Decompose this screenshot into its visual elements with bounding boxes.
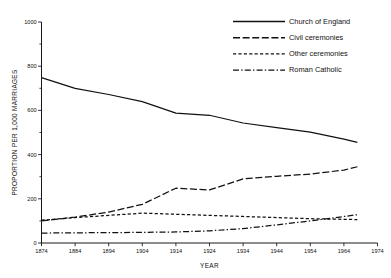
y-tick-label: 800 [27,63,36,69]
legend-label-roman-catholic: Roman Catholic [289,65,342,74]
y-tick-label: 600 [27,107,36,113]
y-tick-label: 400 [27,152,36,158]
x-tick-label: 1924 [203,248,215,254]
x-tick-label: 1884 [69,248,81,254]
x-tick-label: 1974 [371,248,383,254]
x-tick-label: 1894 [102,248,114,254]
x-tick-label: 1944 [270,248,282,254]
x-tick-label: 1914 [170,248,182,254]
legend-label-civil-ceremonies: Civil ceremonies [289,33,344,42]
y-tick-label: 1000 [24,19,36,25]
legend-label-church-of-england: Church of England [289,17,350,26]
y-tick-label: 0 [34,240,37,246]
x-tick-label: 1874 [35,248,47,254]
x-tick-label: 1934 [237,248,249,254]
x-tick-label: 1964 [338,248,350,254]
y-axis-title: PROPORTION PER 1,000 MARRIAGES [11,69,18,195]
x-tick-label: 1954 [304,248,316,254]
legend-label-other-ceremonies: Other ceremonies [289,49,348,58]
x-tick-label: 1904 [136,248,148,254]
chart-canvas: 02004006008001000 1874188418941904191419… [0,0,391,278]
x-axis-title: YEAR [200,262,219,269]
y-tick-label: 200 [27,196,36,202]
line-chart: 02004006008001000 1874188418941904191419… [0,0,391,278]
